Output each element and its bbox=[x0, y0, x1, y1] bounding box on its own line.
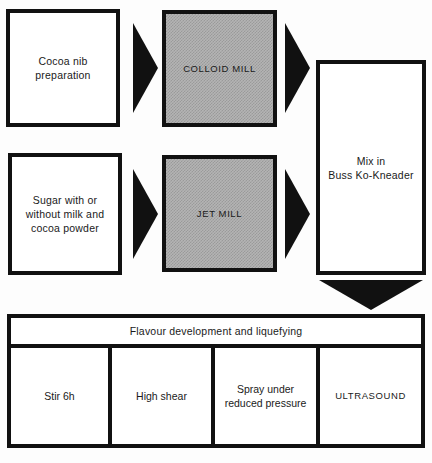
node-sugar-line3: cocoa powder bbox=[31, 222, 99, 234]
flavour-step-ultrasound: ULTRASOUND bbox=[320, 348, 421, 444]
node-mix-line2: Buss Ko-Kneader bbox=[328, 169, 413, 181]
node-sugar-mixture: Sugar with or without milk and cocoa pow… bbox=[8, 153, 122, 275]
node-sugar-line1: Sugar with or bbox=[33, 194, 97, 206]
arrow-jet-mill-to-mix-icon bbox=[285, 169, 310, 259]
flavour-step-high-shear: High shear bbox=[112, 348, 215, 444]
node-cocoa-nib-line2: preparation bbox=[35, 69, 90, 81]
flavour-step-spray: Spray under reduced pressure bbox=[215, 348, 320, 444]
flowchart-canvas: Cocoa nib preparation COLLOID MILL Mix i… bbox=[0, 0, 432, 463]
flavour-development-panel: Flavour development and liquefying Stir … bbox=[7, 314, 425, 448]
node-jet-mill: JET MILL bbox=[162, 155, 277, 272]
node-mix-buss-ko-kneader: Mix in Buss Ko-Kneader bbox=[316, 60, 426, 275]
arrow-mix-to-flavour-icon bbox=[319, 280, 423, 310]
flavour-step-spray-label: Spray under reduced pressure bbox=[222, 382, 310, 410]
flavour-step-stir: Stir 6h bbox=[11, 348, 112, 444]
flavour-step-stir-label: Stir 6h bbox=[41, 389, 77, 403]
node-sugar-line2: without milk and bbox=[26, 208, 104, 220]
arrow-colloid-mill-to-mix-icon bbox=[285, 23, 310, 113]
flavour-steps-row: Stir 6h High shear Spray under reduced p… bbox=[11, 348, 421, 444]
node-jet-mill-label: JET MILL bbox=[193, 207, 246, 221]
node-mix-line1: Mix in bbox=[357, 155, 386, 167]
node-colloid-mill: COLLOID MILL bbox=[162, 10, 277, 127]
arrow-cocoa-nib-to-colloid-mill-icon bbox=[133, 23, 158, 113]
flavour-step-spray-line2: reduced pressure bbox=[225, 397, 307, 409]
node-mix-label: Mix in Buss Ko-Kneader bbox=[324, 154, 417, 182]
flavour-development-header: Flavour development and liquefying bbox=[11, 318, 421, 348]
flavour-step-spray-line1: Spray under bbox=[237, 383, 294, 395]
node-cocoa-nib-label: Cocoa nib preparation bbox=[31, 54, 94, 82]
node-colloid-mill-label: COLLOID MILL bbox=[179, 62, 260, 76]
node-cocoa-nib-preparation: Cocoa nib preparation bbox=[6, 9, 120, 127]
arrow-sugar-to-jet-mill-icon bbox=[133, 169, 158, 259]
node-sugar-label: Sugar with or without milk and cocoa pow… bbox=[22, 193, 108, 235]
node-cocoa-nib-line1: Cocoa nib bbox=[38, 55, 87, 67]
flavour-step-high-shear-label: High shear bbox=[133, 389, 190, 403]
flavour-development-label: Flavour development and liquefying bbox=[130, 325, 303, 337]
flavour-step-ultrasound-label: ULTRASOUND bbox=[332, 389, 409, 403]
